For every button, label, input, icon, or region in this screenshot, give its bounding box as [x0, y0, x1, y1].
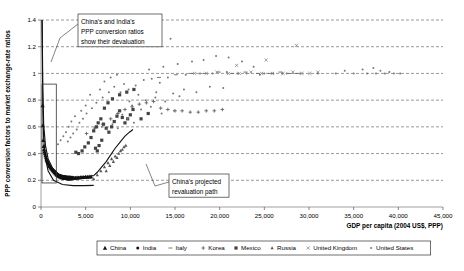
legend-group: ChinaIndiaItalyKoreaMexicoRussiaUnited K…: [97, 241, 431, 255]
x-tick-label: 30,000: [300, 212, 319, 219]
x-tick-label: 15,000: [166, 212, 185, 219]
data-point: [72, 133, 74, 135]
data-point: [123, 121, 126, 124]
data-point: [118, 109, 121, 112]
data-point: [245, 72, 247, 74]
data-point: [118, 93, 121, 96]
legend-item-united-kingdom[interactable]: United Kingdom: [307, 244, 358, 251]
data-point: [117, 127, 119, 129]
data-point: [253, 66, 255, 68]
data-point: [353, 72, 355, 74]
data-point: [178, 95, 180, 97]
x-tick-label: 5,000: [78, 212, 94, 219]
data-point: [99, 117, 102, 120]
data-point: [125, 91, 128, 94]
data-point: [111, 123, 113, 125]
legend-item-united-states[interactable]: United States: [370, 244, 413, 251]
legend-label: Korea: [208, 244, 225, 251]
data-point: [85, 104, 87, 106]
data-point: [154, 96, 156, 98]
data-point: [91, 107, 93, 109]
data-point: [110, 76, 112, 78]
data-point: [162, 66, 164, 68]
data-point: [199, 72, 201, 74]
data-point: [103, 80, 105, 82]
data-point: [335, 72, 337, 74]
data-point: [375, 72, 377, 74]
data-point: [150, 106, 152, 108]
data-point: [110, 125, 113, 128]
data-point: [151, 78, 153, 80]
data-point: [209, 86, 211, 88]
legend-label: Italy: [176, 244, 188, 251]
data-point: [68, 126, 70, 128]
data-point: [97, 121, 100, 124]
data-point: [106, 101, 109, 104]
data-point: [99, 88, 101, 90]
data-point: [228, 56, 230, 58]
x-tick-label: 10,000: [121, 212, 140, 219]
data-point: [111, 97, 114, 100]
data-point: [170, 38, 172, 40]
data-point: [215, 55, 217, 57]
data-point: [113, 86, 115, 88]
data-point: [281, 72, 283, 74]
devaluation-note-line: China's and India's: [81, 18, 135, 25]
y-tick-label: 0.4: [27, 150, 36, 157]
data-point: [80, 110, 82, 112]
data-point: [89, 94, 91, 96]
x-tick-label: 0: [39, 212, 43, 219]
data-point: [183, 88, 185, 90]
data-point: [113, 120, 116, 123]
data-point: [133, 122, 135, 124]
data-point: [62, 135, 64, 137]
revaluation-note-line: China's projected: [172, 178, 222, 186]
data-point: [172, 92, 174, 94]
y-tick-label: 1: [33, 70, 37, 77]
data-point: [115, 115, 118, 118]
data-point: [89, 136, 92, 139]
devaluation-note-line: PPP conversion ratios: [81, 28, 144, 35]
chart-background: [0, 0, 464, 271]
data-point: [74, 151, 77, 154]
data-point: [393, 72, 395, 74]
data-point: [78, 122, 80, 124]
data-point: [102, 96, 104, 98]
legend-marker-circle: [136, 247, 139, 250]
data-point: [131, 104, 133, 106]
data-point: [139, 117, 142, 120]
legend-label: China: [110, 244, 127, 251]
data-point: [362, 68, 364, 70]
data-point: [259, 74, 261, 76]
legend-marker-dot: [370, 247, 372, 249]
data-point: [164, 100, 166, 102]
data-point: [102, 123, 105, 126]
data-point: [191, 60, 193, 62]
data-point: [379, 70, 381, 72]
y-tick-label: 0.8: [27, 96, 36, 103]
data-point: [140, 108, 142, 110]
data-point: [203, 59, 205, 61]
y-tick-label: 0: [33, 203, 37, 210]
data-point: [161, 113, 163, 115]
data-point: [128, 88, 130, 90]
revaluation-note-line: revaluation path: [172, 188, 218, 196]
x-tick-label: 20,000: [210, 212, 229, 219]
data-point: [148, 68, 150, 70]
data-point: [131, 108, 134, 111]
data-point: [155, 91, 157, 93]
y-tick-label: 0.6: [27, 123, 36, 130]
data-point: [384, 72, 386, 74]
data-point: [241, 60, 243, 62]
scatter-chart: 05,00010,00015,00020,00025,00030,00035,0…: [0, 0, 464, 271]
legend-label: Russia: [277, 244, 296, 251]
y-tick-label: 1.2: [27, 43, 36, 50]
x-tick-label: 35,000: [344, 212, 363, 219]
data-point: [82, 118, 84, 120]
data-point: [97, 144, 100, 147]
data-point: [127, 118, 129, 120]
data-point: [121, 116, 124, 119]
data-point: [195, 91, 197, 93]
y-tick-label: 1.4: [27, 16, 36, 23]
data-point: [129, 113, 132, 116]
